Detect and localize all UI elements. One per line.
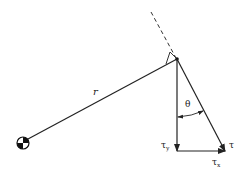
torque-label: τ — [229, 141, 234, 150]
torque-y-label: τy — [161, 141, 169, 151]
torque-y-sub: y — [166, 144, 169, 151]
angle-label: θ — [185, 100, 190, 109]
center-of-mass-icon — [17, 137, 29, 149]
right-angle-marker-inner — [169, 55, 173, 61]
radius-label: r — [93, 87, 98, 97]
torque-x-label: τx — [212, 158, 220, 168]
diagram-svg — [0, 0, 246, 177]
torque-x-sub: x — [217, 161, 220, 168]
lever-arm-line — [28, 59, 177, 139]
dashed-perpendicular-line — [151, 12, 176, 58]
angle-arc — [178, 111, 203, 117]
diagram-canvas: r θ τ τy τx — [0, 0, 246, 177]
